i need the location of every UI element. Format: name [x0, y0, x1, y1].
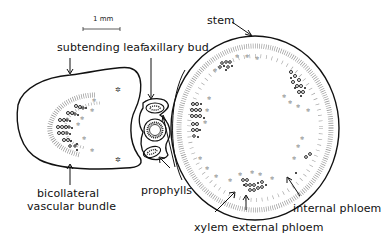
- svg-text:✻: ✻: [270, 175, 274, 181]
- stem-outline: [171, 36, 339, 220]
- svg-text:✻: ✻: [306, 107, 310, 113]
- axillary-bud: [139, 99, 170, 160]
- svg-text:✻: ✻: [82, 135, 86, 141]
- svg-text:✻: ✻: [245, 53, 249, 59]
- label-external-phloem: external phloem: [232, 222, 323, 234]
- label-axillary-bud: axillary bud: [143, 42, 209, 54]
- svg-text:✻: ✻: [214, 173, 218, 179]
- svg-text:✻: ✻: [282, 93, 286, 99]
- minor-bundle-icon: ✲: [115, 86, 121, 94]
- svg-text:✻: ✻: [235, 53, 239, 59]
- svg-text:✻: ✻: [205, 107, 209, 113]
- scale-bar: [83, 27, 120, 31]
- label-internal-phloem: internal phloem: [293, 203, 381, 215]
- svg-text:✻: ✻: [207, 95, 211, 101]
- label-xylem: xylem: [194, 222, 228, 234]
- svg-text:✻: ✻: [255, 55, 259, 61]
- svg-text:✻: ✻: [292, 155, 296, 161]
- svg-text:✻: ✻: [288, 99, 292, 105]
- svg-text:✻: ✻: [205, 165, 209, 171]
- scale-bar-label: 1 mm: [93, 15, 113, 23]
- svg-text:✻: ✻: [203, 119, 207, 125]
- svg-text:✻: ✻: [90, 107, 94, 113]
- label-bicollateral-line1: bicollateral: [37, 188, 99, 200]
- svg-text:✻: ✻: [238, 171, 242, 177]
- svg-text:✻: ✻: [213, 67, 217, 73]
- svg-text:✻: ✻: [250, 169, 254, 175]
- label-prophylls: prophylls: [141, 185, 192, 197]
- svg-text:✻: ✻: [296, 103, 300, 109]
- svg-text:✻: ✻: [80, 115, 84, 121]
- svg-text:✻: ✻: [198, 155, 202, 161]
- label-bicollateral-line2: vascular bundle: [27, 201, 116, 213]
- svg-text:✻: ✻: [76, 121, 80, 127]
- svg-text:✻: ✻: [258, 171, 262, 177]
- svg-text:✻: ✻: [228, 177, 232, 183]
- svg-text:✻: ✻: [300, 135, 304, 141]
- svg-text:✻: ✻: [296, 143, 300, 149]
- label-stem: stem: [207, 15, 235, 27]
- leaf-vascular-bundle: ✻✻✻ ✻✻✻: [50, 95, 100, 155]
- stem-vascular-ring: ✻✻✻✻ ✻✻✻✻ ✻✻✻ ✻✻✻ ✻✻✻✻✻ ✻✻✻: [179, 46, 331, 210]
- svg-text:✻: ✻: [92, 97, 96, 103]
- minor-bundle-icon: ✲: [115, 156, 121, 164]
- svg-text:✻: ✻: [90, 147, 94, 153]
- label-subtending-leaf: subtending leaf: [57, 42, 144, 54]
